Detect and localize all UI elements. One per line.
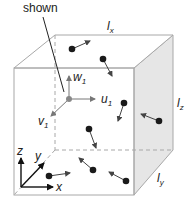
reference-particle — [66, 96, 72, 102]
particle — [109, 172, 129, 184]
axis-label-z: z — [16, 144, 23, 158]
particle — [118, 100, 127, 121]
particle-dot — [123, 178, 130, 185]
dimension-lx: lx — [107, 19, 115, 35]
particle — [86, 126, 96, 148]
particle — [46, 173, 70, 180]
particle-dot — [100, 56, 107, 63]
particle-dot — [69, 46, 76, 53]
dimension-lz: lz — [177, 96, 184, 112]
particle-dot — [86, 126, 93, 133]
axis-label-y: y — [34, 149, 42, 163]
dimension-ly: ly — [157, 171, 165, 187]
particle-dot — [46, 173, 53, 180]
callout-label: shown — [23, 1, 58, 15]
particle-dot — [90, 167, 97, 174]
label-u1: u1 — [101, 92, 112, 108]
particle-dot — [121, 100, 128, 107]
axis-label-x: x — [55, 180, 63, 194]
label-w1: w1 — [73, 70, 86, 86]
cube-diagram: shown lx lz ly w1 u1 v1 z y x — [0, 0, 191, 203]
particle — [79, 158, 96, 173]
label-v1: v1 — [38, 114, 48, 130]
particle-dot — [156, 118, 163, 125]
